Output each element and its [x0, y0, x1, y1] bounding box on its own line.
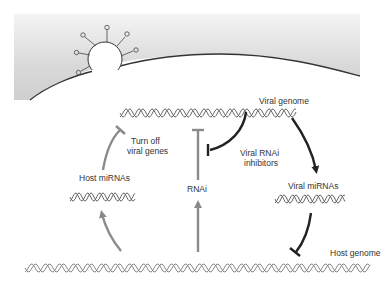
label-rnai: RNAi: [187, 184, 207, 194]
inhibit-viral-rnai-inhibitors: [210, 112, 246, 150]
label-turn-off-2: viral genes: [127, 146, 168, 156]
label-host-genome: Host genome: [330, 248, 381, 258]
helix-strand: [120, 109, 296, 117]
helix-strand: [70, 193, 135, 201]
label-turn-off-1: Turn off: [131, 136, 160, 146]
label-viral-rnai-inhibitors-1: Viral RNAi: [240, 148, 279, 158]
viral-mirna-helix: [275, 195, 345, 203]
label-host-mirnas: Host miRNAs: [79, 173, 130, 183]
label-viral-mirnas: Viral miRNAs: [288, 181, 338, 191]
host-mirna-helix: [70, 193, 135, 201]
cell-membrane: [14, 14, 360, 100]
arrow-host-genome-to-host-mirnas: [102, 214, 121, 251]
helix-strand: [25, 264, 370, 272]
host-genome-helix: [25, 264, 370, 272]
arrow-viral-genome-to-viral-mirnas: [292, 118, 316, 170]
inhibit-viral-mirnas-to-host-genome: [296, 213, 311, 252]
inhibit-host-mirnas-to-viral-genome: [103, 130, 120, 170]
label-viral-genome: Viral genome: [259, 96, 309, 106]
viral-genome-helix: [120, 109, 296, 117]
label-viral-rnai-inhibitors-2: inhibitors: [244, 158, 278, 168]
diagram-canvas: [0, 0, 390, 285]
